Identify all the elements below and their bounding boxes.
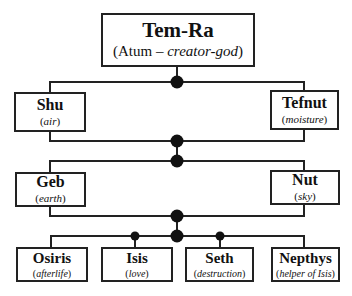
node-name: Geb [36,174,64,190]
node-shu: Shu (air) [14,92,86,132]
junction-dot [171,230,184,243]
node-name: Isis [126,251,148,266]
node-geb: Geb (earth) [15,172,86,207]
node-tem-ra: Tem-Ra (Atum – creator-god) [101,13,255,67]
node-isis: Isis (love) [101,247,173,282]
node-name: Nut [292,172,318,188]
node-role: (air) [40,115,60,127]
node-seth: Seth (destruction) [185,247,254,282]
node-name: Osiris [33,251,71,266]
node-role: (helper of Isis) [276,268,335,279]
node-role: (afterlife) [33,268,71,279]
node-name: Tem-Ra [142,20,214,41]
node-name: Tefnut [282,95,327,111]
node-osiris: Osiris (afterlife) [16,247,88,282]
junction-dot [171,76,184,89]
node-role: (destruction) [194,268,246,279]
node-nepthys: Nepthys (helper of Isis) [271,247,340,282]
node-name: Nepthys [279,251,332,266]
branch-dot [216,232,225,241]
node-role: (Atum – creator-god) [113,43,243,60]
union-dot [171,135,184,148]
node-tefnut: Tefnut (moisture) [270,90,339,130]
node-role: (sky) [294,190,315,202]
node-name: Seth [205,251,233,266]
branch-dot [131,232,140,241]
union-dot [171,210,184,223]
junction-dot [171,155,184,168]
node-nut: Nut (sky) [270,170,340,205]
node-role: (earth) [35,192,66,204]
node-role: (moisture) [282,113,327,125]
node-role: (love) [125,268,148,279]
node-name: Shu [37,97,64,113]
